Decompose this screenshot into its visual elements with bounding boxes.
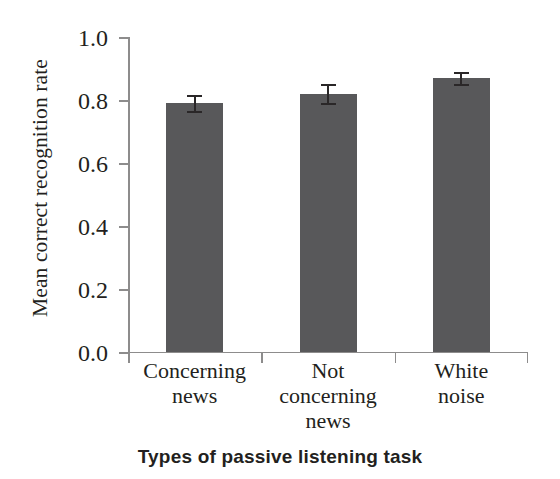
y-tick-label: 1.0 <box>78 24 108 51</box>
y-tick-mark: 0.4 <box>119 226 128 228</box>
bar <box>300 94 357 352</box>
x-axis-category-label: Notconcerningnews <box>261 358 394 433</box>
category-label-line: noise <box>395 383 528 408</box>
error-bar-stem <box>327 84 329 103</box>
plot-area: 0.00.20.40.60.81.0 <box>128 37 528 352</box>
y-tick-label: 0.6 <box>78 150 108 177</box>
x-axis-title: Types of passive listening task <box>0 446 560 468</box>
category-label-line: concerning <box>261 383 394 408</box>
y-tick-label: 0.8 <box>78 87 108 114</box>
y-axis-title: Mean correct recognition rate <box>18 0 62 384</box>
y-tick-mark: 0.0 <box>119 352 128 354</box>
error-bar-cap-upper <box>187 95 202 97</box>
bar <box>433 78 490 352</box>
y-tick-mark: 0.6 <box>119 163 128 165</box>
y-tick-mark: 0.2 <box>119 289 128 291</box>
error-bar-cap-lower <box>321 103 336 105</box>
y-tick-mark: 1.0 <box>119 37 128 39</box>
error-bar-cap-upper <box>321 84 336 86</box>
category-label-line: Concerning <box>128 358 261 383</box>
error-bar-cap-lower <box>187 111 202 113</box>
error-bar-stem <box>194 95 196 111</box>
category-label-line: White <box>395 358 528 383</box>
y-tick-mark: 0.8 <box>119 100 128 102</box>
y-axis-line <box>128 37 130 353</box>
bar-chart-figure: Mean correct recognition rate 0.00.20.40… <box>0 0 560 479</box>
category-label-line: Not <box>261 358 394 383</box>
category-label-line: news <box>128 383 261 408</box>
category-label-line: news <box>261 408 394 433</box>
error-bar-cap-upper <box>454 72 469 74</box>
error-bar-cap-lower <box>454 84 469 86</box>
bar <box>166 103 223 352</box>
y-tick-label: 0.2 <box>78 276 108 303</box>
y-tick-label: 0.4 <box>78 213 108 240</box>
x-axis-category-label: Concerningnews <box>128 358 261 408</box>
x-axis-category-label: Whitenoise <box>395 358 528 408</box>
y-tick-label: 0.0 <box>78 339 108 366</box>
